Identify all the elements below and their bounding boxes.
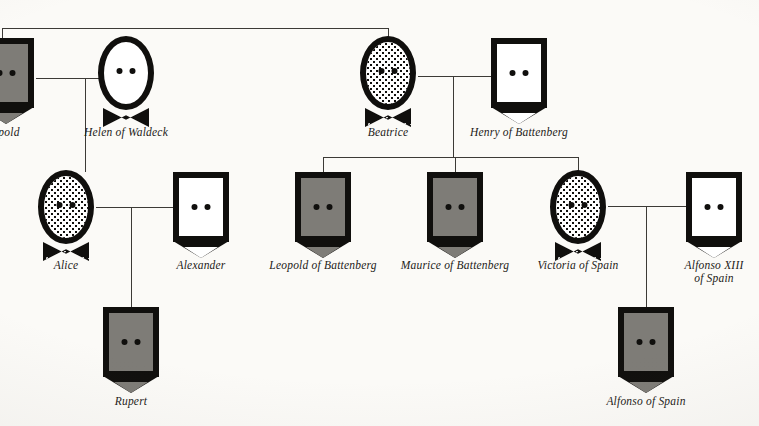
sibship-line-top [2,28,389,29]
descent-line-alice [85,78,86,172]
eyes-icon [446,204,465,210]
symbol-body [360,36,416,110]
sibship-drop-leopold-battenberg [323,157,324,173]
eyes-icon [637,339,656,345]
eyes-icon [705,204,724,210]
symbol-body [103,307,159,377]
person-label-alexander: Alexander [176,259,225,272]
person-label-alice: Alice [54,259,79,272]
symbol-body [38,170,94,244]
eyes-icon [122,339,141,345]
female-symbol-carrier [550,170,606,261]
female-symbol-carrier [38,170,94,261]
symbol-body [550,170,606,244]
pedigree-chart: opold Helen of Waldeck Beatrice [0,0,759,426]
symbol-pedestal [103,376,159,393]
eyes-icon [57,202,76,208]
symbol-pedestal [686,241,742,258]
person-label-rupert: Rupert [115,395,148,408]
person-label-maurice-of-battenberg: Maurice of Battenberg [401,259,510,272]
symbol-pedestal [491,107,547,124]
male-symbol-affected [103,307,159,393]
male-symbol-normal [686,172,742,258]
symbol-pedestal [365,108,411,127]
male-symbol-normal [173,172,229,258]
eyes-icon [117,68,136,74]
male-symbol-normal [491,38,547,124]
symbol-pedestal [295,241,351,258]
person-label-henry-of-battenberg: Henry of Battenberg [470,126,568,139]
symbol-body [98,36,154,110]
symbol-pedestal [427,241,483,258]
symbol-pedestal [0,107,34,124]
male-symbol-affected [618,307,674,393]
person-label-helen-of-waldeck: Helen of Waldeck [84,126,168,139]
male-symbol-affected [427,172,483,258]
eyes-icon [0,70,16,76]
female-symbol-carrier [360,36,416,127]
person-label-alfonso-xiii-line2: of Spain [694,272,734,285]
eyes-icon [379,68,398,74]
symbol-body [491,38,547,108]
person-label-beatrice: Beatrice [368,126,409,139]
male-symbol-affected [0,38,34,124]
person-label-victoria-of-spain: Victoria of Spain [537,259,618,272]
person-label-leopold-of-battenberg: Leopold of Battenberg [269,259,376,272]
person-label-alfonso-xiii-line1: Alfonso XIII [685,259,744,272]
sibship-drop-maurice-battenberg [455,157,456,173]
descent-line-rupert [131,207,132,308]
female-symbol-normal [98,36,154,127]
eyes-icon [192,204,211,210]
sibship-line-battenberg [323,157,579,158]
sibship-drop-victoria-spain [578,157,579,171]
symbol-body [686,172,742,242]
symbol-body [173,172,229,242]
marriage-line-leopold-helen [36,78,100,79]
marriage-line-victoria-alfonso [608,206,687,207]
symbol-body [295,172,351,242]
eyes-icon [569,202,588,208]
person-label-leopold: opold [0,126,20,139]
eyes-icon [510,70,529,76]
symbol-body [427,172,483,242]
marriage-line-alice-alexander [96,207,174,208]
eyes-icon [314,204,333,210]
symbol-body [0,38,34,108]
descent-line-battenberg [453,76,454,157]
descent-line-alfonso-spain [646,206,647,308]
person-label-alfonso-of-spain: Alfonso of Spain [606,395,685,408]
symbol-pedestal [173,241,229,258]
symbol-pedestal [103,108,149,127]
male-symbol-affected [295,172,351,258]
symbol-body [618,307,674,377]
symbol-pedestal [618,376,674,393]
marriage-line-beatrice-henry [418,76,492,77]
